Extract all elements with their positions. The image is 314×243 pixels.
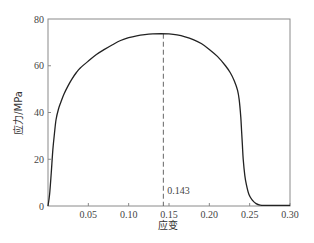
data-series [48,34,290,206]
x-tick-label: 0.10 [120,209,138,220]
y-tick-label: 0 [39,201,44,212]
x-tick-label: 0.30 [281,209,299,220]
y-tick-label: 80 [34,14,44,25]
stress-strain-chart: 0.050.100.150.200.250.30 020406080 0.143… [0,0,314,243]
x-tick-label: 0.20 [201,209,219,220]
plot-border [48,19,290,206]
y-tick-label: 40 [34,107,44,118]
y-tick-label: 20 [34,154,44,165]
peak-strain-label: 0.143 [167,185,190,196]
y-tick-label: 60 [34,60,44,71]
y-axis-title: 应力/MPa [12,91,24,135]
x-tick-label: 0.05 [80,209,98,220]
stress-strain-curve [48,34,290,206]
x-axis-title: 应变 [158,219,178,231]
x-tick-label: 0.25 [241,209,259,220]
plot-frame [48,19,290,206]
annotations: 0.143 [163,34,190,206]
x-tick-label: 0.15 [160,209,178,220]
